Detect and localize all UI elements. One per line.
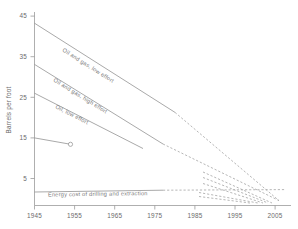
x-tick-label-2005: 2005: [268, 212, 283, 219]
x-tick-label-1955: 1955: [67, 212, 82, 219]
x-tick-group: 1945 1955 1965 1975 1985 1995 2005: [27, 206, 283, 220]
series-projection-oil-and-gas-low-effort: [175, 112, 279, 200]
y-tick-group: 45 35 25 15 5: [19, 12, 34, 181]
x-tick-label-1945: 1945: [27, 212, 42, 219]
chart-container: 45 35 25 15 5 1945 1955 1965 1975 1985 1…: [0, 0, 298, 229]
series-label-oil-low-effort: Oil, low effort: [55, 104, 90, 126]
series-projection-oil-and-gas-high-effort: [163, 144, 279, 201]
y-tick-label-15: 15: [19, 134, 27, 141]
y-tick-label-5: 5: [23, 175, 27, 182]
series-line-oil-and-gas-low-effort: [35, 23, 176, 112]
y-axis-title: Barrels per foot: [5, 87, 13, 134]
y-tick-label-25: 25: [19, 94, 27, 101]
x-tick-label-1985: 1985: [187, 212, 202, 219]
series-line-oil-high-effort: [35, 138, 70, 144]
y-tick-label-45: 45: [19, 12, 27, 19]
line-chart-plot: 45 35 25 15 5 1945 1955 1965 1975 1985 1…: [0, 0, 298, 229]
series-projection-fan-c: [203, 184, 263, 204]
series-projection-fan-e: [199, 197, 250, 204]
annotation-group: Oil and gas, low effort Oil and gas, hig…: [48, 47, 148, 198]
series-label-oil-and-gas-low-effort: Oil and gas, low effort: [61, 47, 115, 84]
axis-group: [35, 12, 292, 206]
x-tick-label-1965: 1965: [107, 212, 122, 219]
data-point-marker-circle: [68, 142, 72, 146]
x-tick-label-1975: 1975: [147, 212, 162, 219]
y-tick-label-35: 35: [19, 53, 27, 60]
x-tick-label-1995: 1995: [227, 212, 242, 219]
series-label-energy-cost: Energy cost of drilling and extraction: [48, 190, 148, 197]
